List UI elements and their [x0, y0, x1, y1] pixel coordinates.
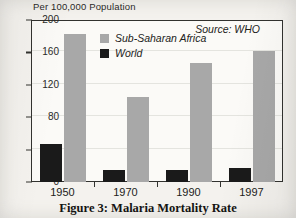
legend-item-world: World	[100, 46, 206, 60]
x-tick-mark	[94, 182, 95, 187]
bar-world-1950	[40, 144, 62, 182]
y-axis-title: Per 100,000 Population	[33, 1, 136, 12]
bar-world-1970	[103, 170, 125, 182]
x-tick-label-1950: 1950	[33, 186, 93, 198]
x-tick-label-1990: 1990	[159, 186, 219, 198]
legend-swatch-icon-africa	[100, 34, 109, 43]
bar-sub-saharan-africa-1970	[127, 97, 149, 182]
legend-item-sub-saharan-africa: Sub-Saharan Africa	[100, 31, 206, 45]
bar-sub-saharan-africa-1950	[64, 34, 86, 182]
legend-label-world: World	[115, 47, 142, 59]
legend-swatch-icon-world	[100, 49, 109, 58]
legend: Sub-Saharan Africa World	[100, 31, 206, 61]
bar-sub-saharan-africa-1990	[190, 63, 212, 182]
x-tick-label-1997: 1997	[222, 186, 282, 198]
x-tick-mark	[157, 182, 158, 187]
figure-caption: Figure 3: Malaria Mortality Rate	[0, 201, 296, 216]
bar-sub-saharan-africa-1997	[253, 51, 275, 182]
bar-world-1990	[166, 170, 188, 182]
legend-label-africa: Sub-Saharan Africa	[115, 32, 206, 44]
x-tick-label-1970: 1970	[96, 186, 156, 198]
x-tick-mark	[220, 182, 221, 187]
bar-world-1997	[229, 168, 251, 182]
figure-malaria-mortality-rate: Per 100,000 Population 04080120160200 19…	[0, 0, 296, 218]
source-note: Source: WHO	[195, 23, 260, 35]
